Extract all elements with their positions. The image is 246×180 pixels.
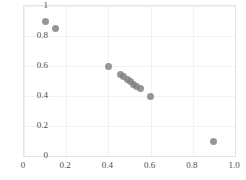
data-point <box>147 93 154 100</box>
y-tick-label: 0.6 <box>8 60 48 70</box>
gridline-vertical <box>193 6 194 156</box>
y-tick-label: 0 <box>8 150 48 160</box>
plot-area <box>23 5 236 157</box>
gridline-vertical <box>108 6 109 156</box>
data-point <box>210 138 217 145</box>
gridline-horizontal <box>24 6 235 7</box>
data-point <box>137 85 144 92</box>
data-point <box>52 25 59 32</box>
gridline-vertical <box>66 6 67 156</box>
y-tick-label: 0.2 <box>8 120 48 130</box>
y-tick-label: 0.8 <box>8 30 48 40</box>
gridline-horizontal <box>24 96 235 97</box>
data-point <box>42 18 49 25</box>
x-tick-label: 0.2 <box>60 160 71 170</box>
scatter-chart: 00.20.40.60.81.0 00.20.40.60.81 <box>0 0 246 180</box>
x-tick-label: 0.6 <box>144 160 155 170</box>
y-tick-label: 1 <box>8 0 48 10</box>
gridline-horizontal <box>24 66 235 67</box>
gridline-vertical <box>235 6 236 156</box>
x-tick-label: 0.4 <box>102 160 113 170</box>
gridline-horizontal <box>24 36 235 37</box>
data-point <box>105 63 112 70</box>
x-tick-label: 0.8 <box>186 160 197 170</box>
gridline-horizontal <box>24 126 235 127</box>
y-tick-label: 0.4 <box>8 90 48 100</box>
x-tick-label: 1.0 <box>228 160 239 170</box>
gridline-horizontal <box>24 156 235 157</box>
x-tick-label: 0 <box>21 160 26 170</box>
gridline-vertical <box>151 6 152 156</box>
gridline-vertical <box>24 6 25 156</box>
